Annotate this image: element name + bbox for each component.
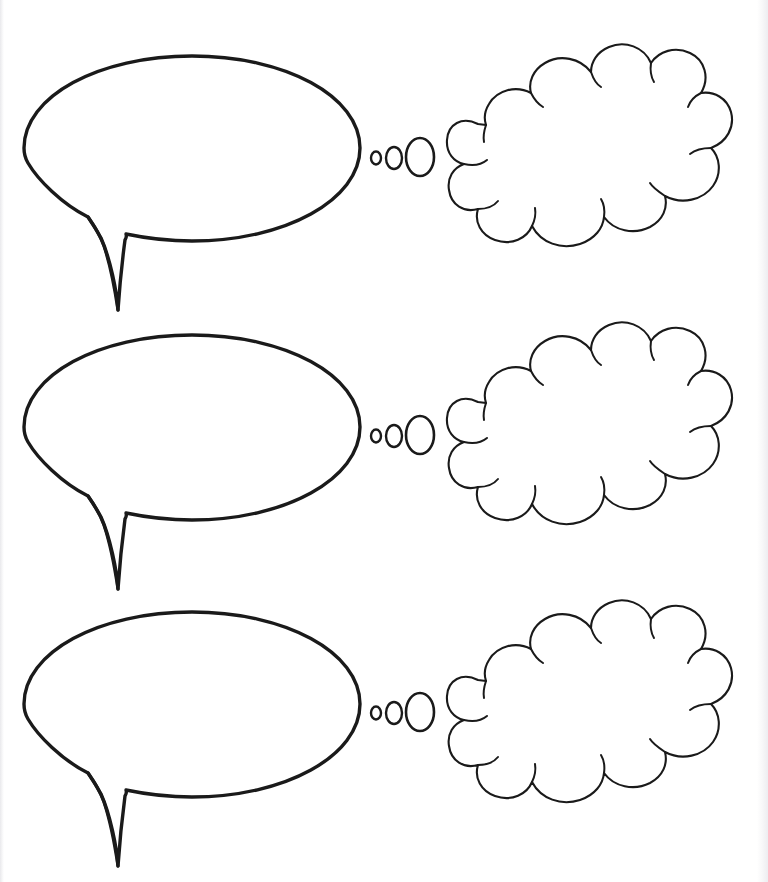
speech-bubble-1[interactable] [24, 56, 360, 310]
worksheet-page [0, 0, 768, 882]
speech-bubble-2[interactable] [24, 335, 360, 589]
bubble-pair-row-1 [24, 44, 732, 310]
thought-bubble-1[interactable] [447, 44, 732, 246]
thought-bubble-2[interactable] [447, 322, 732, 524]
thought-trail-1 [371, 138, 434, 176]
thought-bubble-3[interactable] [447, 600, 732, 802]
thought-trail-3 [371, 693, 434, 731]
bubble-pair-row-3 [24, 600, 732, 866]
thought-trail-2 [371, 416, 434, 454]
speech-bubble-3[interactable] [24, 612, 360, 866]
bubbles-canvas [0, 0, 768, 882]
bubble-pair-row-2 [24, 322, 732, 589]
